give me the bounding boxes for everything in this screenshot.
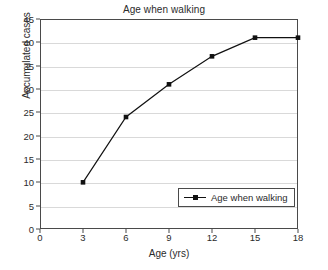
x-axis-tick-label: 3 [71,232,95,243]
x-axis-tick-mark [126,229,127,233]
y-axis-tick-label: 10 [12,177,34,188]
x-axis-tick-mark [83,229,84,233]
legend-label: Age when walking [211,192,288,203]
x-axis-tick-mark [169,229,170,233]
series-line [83,38,298,183]
x-axis-tick-label: 0 [28,232,52,243]
legend: Age when walking [178,188,295,207]
legend-line-marker-icon [184,193,206,202]
data-point-marker [253,35,258,40]
x-axis-tick-mark [212,229,213,233]
data-point-marker [81,180,86,185]
x-axis-tick-mark [40,229,41,233]
x-axis-tick-label: 12 [200,232,224,243]
x-axis-tick-mark [298,229,299,233]
data-point-marker [124,115,129,120]
x-axis-tick-mark [255,229,256,233]
chart-title: Age when walking [0,4,328,15]
x-axis-tick-label: 15 [243,232,267,243]
data-point-marker [296,35,301,40]
data-point-marker [210,54,215,59]
x-axis-tick-label: 6 [114,232,138,243]
y-axis-title: Accumulated cases [21,0,32,136]
x-axis-tick-label: 9 [157,232,181,243]
x-axis-tick-label: 18 [286,232,310,243]
chart-container: Age when walking 051015202530354045 0369… [0,0,328,270]
y-axis-tick-label: 5 [12,200,34,211]
y-axis-tick-label: 15 [12,154,34,165]
x-axis-title: Age (yrs) [40,248,298,259]
data-point-marker [167,82,172,87]
